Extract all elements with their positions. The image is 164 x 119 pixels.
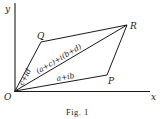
edge-label-or: (a+c)+i(b+d) [34, 42, 83, 76]
edge-label-oq: c+id [17, 67, 33, 87]
point-label-q: Q [37, 31, 45, 41]
point-label-p: P [107, 76, 115, 86]
complex-addition-diagram: y x O Q R P c+id (a+c)+i(b+d) a+ib Fig. … [0, 0, 164, 119]
point-label-o: O [4, 92, 12, 102]
x-axis-label: x [151, 92, 156, 102]
point-label-r: R [129, 21, 137, 31]
figure-caption: Fig. 1 [66, 107, 89, 117]
segment-pr [107, 25, 127, 75]
y-axis-label: y [4, 4, 11, 14]
segment-qr [41, 25, 127, 42]
